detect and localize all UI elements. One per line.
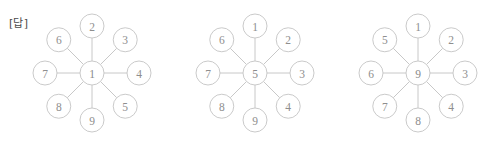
node-top-right-value: 2: [285, 34, 291, 46]
node-bottom-value: 9: [89, 115, 95, 127]
node-bottom-left: 7: [373, 94, 397, 118]
node-center-value: 1: [89, 68, 95, 80]
node-center: 9: [406, 61, 430, 85]
node-center: 5: [243, 61, 267, 85]
node-top: 1: [406, 14, 430, 38]
node-bottom-left-value: 8: [56, 101, 62, 113]
node-top-value: 2: [89, 21, 95, 33]
spoke-top-right: [426, 48, 442, 64]
node-top-right: 3: [113, 28, 137, 52]
node-top-left: 5: [373, 28, 397, 52]
node-bottom: 9: [80, 108, 104, 132]
node-bottom-right: 4: [439, 94, 463, 118]
node-bottom-left: 8: [47, 94, 71, 118]
spoke-bottom-left: [230, 81, 246, 97]
node-bottom: 8: [406, 108, 430, 132]
spoke-top-left: [230, 48, 246, 64]
node-top-left: 6: [210, 28, 234, 52]
node-top: 2: [80, 14, 104, 38]
spoke-top-left: [67, 48, 83, 64]
wheel-diagram-3: 123487659: [343, 0, 491, 142]
node-top-left-value: 6: [219, 34, 225, 46]
node-right: 3: [290, 61, 314, 85]
node-right-value: 4: [136, 68, 142, 80]
node-left: 7: [196, 61, 220, 85]
node-top: 1: [243, 14, 267, 38]
node-bottom: 9: [243, 108, 267, 132]
spoke-top-right: [100, 48, 116, 64]
node-top-left-value: 5: [382, 34, 388, 46]
node-left: 6: [359, 61, 383, 85]
node-bottom-value: 8: [415, 115, 421, 127]
node-top-left-value: 6: [56, 34, 62, 46]
node-bottom-right-value: 4: [448, 101, 454, 113]
node-bottom-right: 4: [276, 94, 300, 118]
node-top-right-value: 2: [448, 34, 454, 46]
spoke-bottom-right: [426, 81, 442, 97]
node-top-right: 2: [276, 28, 300, 52]
node-left-value: 6: [368, 68, 374, 80]
node-left-value: 7: [205, 68, 211, 80]
node-bottom-right-value: 5: [122, 101, 128, 113]
spoke-top-left: [393, 48, 409, 64]
node-bottom-right: 5: [113, 94, 137, 118]
spoke-bottom-right: [100, 81, 116, 97]
node-right-value: 3: [299, 68, 305, 80]
spoke-bottom-right: [263, 81, 279, 97]
node-right: 3: [453, 61, 477, 85]
node-right-value: 3: [462, 68, 468, 80]
node-left-value: 7: [42, 68, 48, 80]
node-bottom-right-value: 4: [285, 101, 291, 113]
node-bottom-left: 8: [210, 94, 234, 118]
node-top-right-value: 3: [122, 34, 128, 46]
node-bottom-left-value: 8: [219, 101, 225, 113]
node-center: 1: [80, 61, 104, 85]
spoke-top-right: [263, 48, 279, 64]
spoke-bottom-left: [67, 81, 83, 97]
node-bottom-left-value: 7: [382, 101, 388, 113]
node-top-value: 1: [252, 21, 258, 33]
wheel-diagram-2: 123498765: [180, 0, 330, 142]
node-right: 4: [127, 61, 151, 85]
node-top-left: 6: [47, 28, 71, 52]
node-top-value: 1: [415, 21, 421, 33]
node-left: 7: [33, 61, 57, 85]
node-bottom-value: 9: [252, 115, 258, 127]
node-center-value: 5: [252, 68, 258, 80]
node-top-right: 2: [439, 28, 463, 52]
node-center-value: 9: [415, 68, 421, 80]
spoke-bottom-left: [393, 81, 409, 97]
wheel-diagram-1: 234598761: [17, 0, 167, 142]
